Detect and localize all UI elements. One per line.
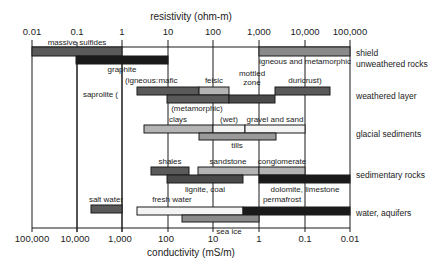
bar-tills — [199, 133, 276, 140]
bar-igneous-metamorphic — [259, 47, 350, 56]
label-sea-ice: sea ice — [216, 227, 242, 236]
label-zone: zone — [243, 78, 261, 87]
label-mottled: mottled — [239, 69, 265, 78]
top-tick: 0.1 — [70, 26, 83, 37]
top-tick: 100,000 — [333, 26, 367, 37]
bar-permafrost — [243, 207, 350, 215]
bar-salt-water — [91, 205, 122, 213]
label-graphite: graphite — [108, 65, 137, 74]
bar-shales — [151, 167, 189, 175]
label-metamorphic: (metamorphic) — [171, 104, 223, 113]
bottom-axis-ticks: 100,000 10,000 1,000 100 10 1 0.1 0.01 — [15, 233, 359, 244]
bar-clays — [144, 125, 213, 133]
top-tick: 1,000 — [247, 26, 271, 37]
bar-felsic — [199, 87, 229, 95]
category-sedimentary: sedimentary rocks — [356, 170, 425, 180]
bar-metamorphic — [167, 95, 229, 103]
label-conglomerate: conglomerate — [258, 157, 307, 166]
bar-mafic — [137, 87, 199, 95]
label-saprolite: saprolite ( — [83, 90, 118, 99]
bar-lignite-coal — [167, 175, 243, 183]
label-fresh-water: fresh water — [152, 195, 192, 204]
label-salt-water: salt water — [89, 195, 124, 204]
bottom-tick: 1 — [256, 233, 261, 244]
bottom-tick: 0.01 — [341, 233, 360, 244]
bottom-tick: 100,000 — [15, 233, 49, 244]
category-labels: shield unweathered rocks weathered layer… — [355, 48, 428, 218]
label-igneous-metamorphic: igneous and metamorphic — [259, 57, 351, 66]
label-duricrust: duricrust) — [288, 76, 322, 85]
label-gravel-sand: gravel and sand — [247, 115, 304, 124]
bottom-axis-title: conductivity (mS/m) — [147, 247, 235, 258]
bar-duricrust — [275, 87, 330, 95]
category-weathered: weathered layer — [355, 91, 417, 101]
label-felsic: felsic — [205, 76, 223, 85]
bottom-tick: 1,000 — [108, 233, 132, 244]
bar-graphite — [76, 56, 168, 64]
label-massive-sulfides: massive sulfides — [48, 38, 107, 47]
label-lignite-coal: lignite, coal — [185, 185, 225, 194]
bottom-tick: 100 — [158, 233, 174, 244]
label-tills: tills — [231, 141, 243, 150]
top-tick: 10 — [163, 26, 174, 37]
label-wet: (wet) — [220, 115, 238, 124]
bar-wet — [213, 125, 245, 133]
bar-massive-sulfides — [32, 47, 122, 56]
category-shield: shield — [356, 48, 378, 58]
category-water: water, aquifers — [355, 208, 411, 218]
category-glacial: glacial sediments — [356, 129, 421, 139]
category-unweathered: unweathered rocks — [356, 59, 428, 69]
top-tick: 1 — [119, 26, 124, 37]
top-tick: 0.01 — [23, 26, 42, 37]
bottom-tick: 10,000 — [60, 233, 89, 244]
top-axis-ticks: 0.01 0.1 1 10 100 1,000 10,000 100,000 — [23, 26, 367, 37]
bottom-tick: 10 — [208, 233, 219, 244]
bar-mottled-zone — [229, 95, 275, 103]
label-mafic: mafic — [158, 76, 177, 85]
label-clays: clays — [169, 115, 187, 124]
bottom-tick: 0.1 — [298, 233, 311, 244]
bar-dolomite-limestone — [259, 175, 350, 183]
top-axis-title: resistivity (ohm-m) — [150, 11, 232, 22]
top-tick: 10,000 — [290, 26, 319, 37]
label-sandstone: sandstone — [210, 157, 247, 166]
bar-sandstone — [198, 167, 259, 175]
bar-gravel-sand — [245, 125, 305, 133]
label-permafrost: permafrost — [263, 195, 302, 204]
resistivity-conductivity-chart: resistivity (ohm-m) 0.01 0.1 1 10 100 1,… — [0, 0, 441, 265]
label-shales: shales — [158, 157, 181, 166]
top-tick: 100 — [205, 26, 221, 37]
bar-conglomerate — [259, 167, 305, 175]
bar-fresh-water — [137, 207, 243, 215]
label-igneous: (igneous: — [125, 76, 158, 85]
bar-sea-ice — [182, 215, 259, 222]
label-dolomite-limestone: dolomite, limestone — [271, 185, 340, 194]
